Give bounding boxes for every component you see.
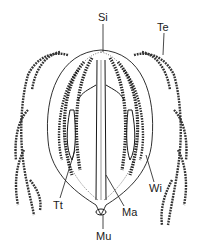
label-si: Si xyxy=(98,12,108,23)
label-mu: Mu xyxy=(96,231,111,242)
label-te: Te xyxy=(157,22,169,33)
label-ma: Ma xyxy=(122,207,137,218)
label-tt: Tt xyxy=(53,200,63,211)
ctenophore-diagram: Si Te Tt Ma Wi Mu xyxy=(0,0,203,250)
label-wi: Wi xyxy=(149,183,162,194)
ctenophore-illustration xyxy=(0,0,203,250)
